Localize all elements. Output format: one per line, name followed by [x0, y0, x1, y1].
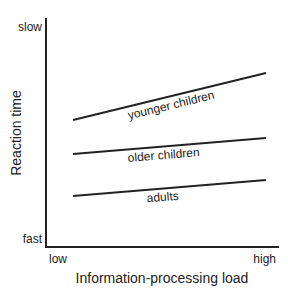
y-tick-slow: slow — [18, 20, 42, 34]
chart: younger children older children adults s… — [0, 0, 288, 293]
y-axis-title: Reaction time — [8, 90, 24, 176]
series-line-younger-children — [73, 73, 266, 120]
x-tick-low: low — [49, 252, 67, 266]
x-axis-title: Information-processing load — [76, 270, 249, 286]
x-tick-high: high — [253, 252, 276, 266]
series-label-adults: adults — [146, 189, 179, 206]
y-tick-fast: fast — [23, 232, 43, 246]
series-label-younger-children: younger children — [126, 88, 216, 123]
